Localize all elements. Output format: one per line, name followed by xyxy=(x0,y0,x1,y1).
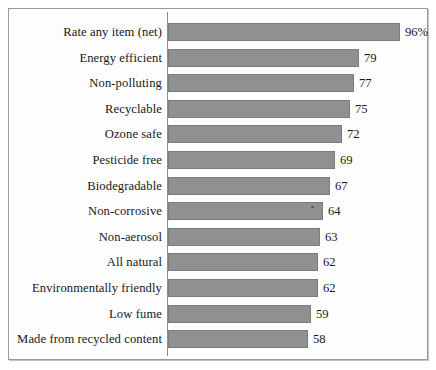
bar-rect xyxy=(168,177,330,195)
bar-category-label: Recyclable xyxy=(9,102,162,116)
bar-value-label: 62 xyxy=(323,281,336,295)
bar-category-label: Environmentally friendly xyxy=(9,281,162,295)
bar-category-label: Pesticide free xyxy=(9,153,162,167)
bar-rect xyxy=(168,202,323,220)
bar-row: Biodegradable67 xyxy=(9,177,427,195)
bar-rect xyxy=(168,330,308,348)
bar-rect xyxy=(168,100,350,118)
bar-rect xyxy=(168,279,318,297)
bar-category-label: Ozone safe xyxy=(9,127,162,141)
bar-rect xyxy=(168,151,335,169)
bar-row: Made from recycled content58 xyxy=(9,330,427,348)
bar-row: Low fume59 xyxy=(9,305,427,323)
bar-category-label: Non-corrosive xyxy=(9,204,162,218)
bar-value-label: 72 xyxy=(347,127,360,141)
bar-value-label: 64 xyxy=(328,204,341,218)
bar-value-label: 75 xyxy=(355,102,368,116)
bar-row: Environmentally friendly62 xyxy=(9,279,427,297)
bar-category-label: Non-polluting xyxy=(9,76,162,90)
bar-category-label: All natural xyxy=(9,255,162,269)
bar-rect xyxy=(168,49,359,67)
bar-value-label: 59 xyxy=(316,307,329,321)
bar-row: Non-polluting77 xyxy=(9,74,427,92)
bar-chart-figure: Rate any item (net)96%Energy efficient79… xyxy=(8,8,428,360)
bar-row: Rate any item (net)96% xyxy=(9,23,427,41)
bar-row: Non-aerosol63 xyxy=(9,228,427,246)
bar-category-label: Low fume xyxy=(9,307,162,321)
bar-row: Energy efficient79 xyxy=(9,49,427,67)
bar-value-label: 62 xyxy=(323,255,336,269)
bar-value-label: 67 xyxy=(335,179,348,193)
bar-rect xyxy=(168,74,354,92)
bar-rect xyxy=(168,125,342,143)
bar-rect xyxy=(168,253,318,271)
bar-row: Recyclable75 xyxy=(9,100,427,118)
bar-value-label: 63 xyxy=(325,230,338,244)
bar-rect xyxy=(168,228,320,246)
plot-area: Rate any item (net)96%Energy efficient79… xyxy=(9,9,427,359)
bar-category-label: Made from recycled content xyxy=(9,332,162,346)
bar-rect xyxy=(168,305,311,323)
bar-category-label: Biodegradable xyxy=(9,179,162,193)
bar-row: All natural62 xyxy=(9,253,427,271)
bar-row: Non-corrosive64 xyxy=(9,202,427,220)
bar-value-label: 58 xyxy=(313,332,326,346)
bar-rect xyxy=(168,23,400,41)
bar-value-label: 77 xyxy=(359,76,372,90)
bar-category-label: Energy efficient xyxy=(9,51,162,65)
bar-category-label: Non-aerosol xyxy=(9,230,162,244)
bar-row: Ozone safe72 xyxy=(9,125,427,143)
bar-value-label: 69 xyxy=(340,153,353,167)
bar-value-label: 79 xyxy=(364,51,377,65)
bar-category-label: Rate any item (net) xyxy=(9,25,162,39)
bar-value-label: 96% xyxy=(405,25,428,39)
bar-row: Pesticide free69 xyxy=(9,151,427,169)
